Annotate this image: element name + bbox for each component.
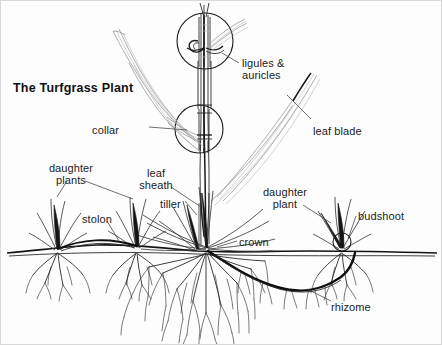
label-daughter-plants: daughter plants <box>31 162 111 186</box>
label-crown: crown <box>239 236 269 248</box>
figure-title: The Turfgrass Plant <box>13 81 133 95</box>
label-daughter-plant: daughter plant <box>251 186 319 210</box>
label-collar: collar <box>69 124 119 136</box>
label-rhizome: rhizome <box>331 301 371 313</box>
label-budshoot: budshoot <box>358 210 404 222</box>
label-leaf-blade: leaf blade <box>313 125 362 137</box>
label-ligules-auricles: ligules & auricles <box>242 57 284 81</box>
root-system <box>121 253 268 345</box>
leader-leaf-blade <box>287 95 311 119</box>
daughter-plant-left-2 <box>106 197 169 301</box>
turfgrass-diagram: The Turfgrass Plant ligules & auricles c… <box>0 0 442 345</box>
label-stolon: stolon <box>82 213 112 225</box>
label-tiller: tiller <box>160 198 181 210</box>
ligule-magnifier <box>177 13 248 69</box>
label-leaf-sheath: leaf sheath <box>129 167 183 191</box>
